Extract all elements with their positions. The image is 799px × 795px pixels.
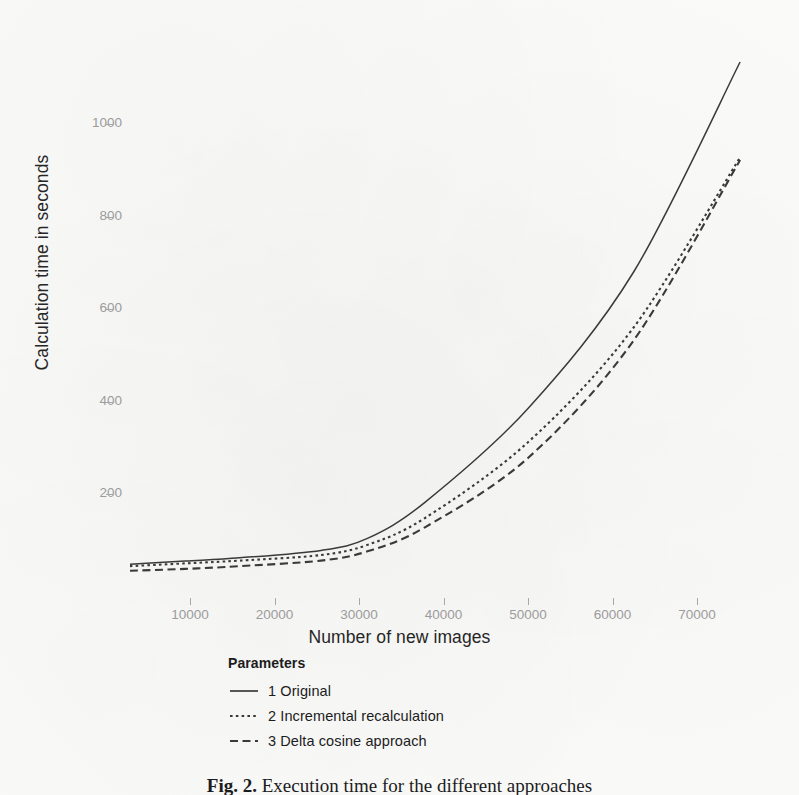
chart-line-series-3	[130, 160, 740, 571]
legend-entry-label: 1 Original	[268, 683, 331, 699]
x-tick-label: 50000	[483, 607, 573, 622]
y-axis-title: Calculation time in seconds	[32, 113, 53, 413]
y-tick-label: 400	[52, 393, 122, 408]
y-tick-mark	[106, 494, 113, 495]
legend-entry-label: 2 Incremental recalculation	[268, 708, 444, 724]
y-tick-label: 600	[52, 300, 122, 315]
x-tick-label: 40000	[399, 607, 489, 622]
x-tick-mark	[444, 598, 445, 605]
x-tick-mark	[190, 598, 191, 605]
x-tick-label: 70000	[652, 607, 742, 622]
legend-entry[interactable]: 2 Incremental recalculation	[228, 703, 568, 728]
chart-series-group	[130, 62, 740, 571]
chart-legend: Parameters 1 Original2 Incremental recal…	[228, 655, 568, 753]
y-tick-label: 200	[52, 485, 122, 500]
legend-title: Parameters	[228, 655, 568, 671]
figure-page: 2004006008001000 Calculation time in sec…	[0, 0, 799, 795]
chart-line-series-1	[130, 62, 740, 564]
legend-entry-label: 3 Delta cosine approach	[268, 733, 427, 749]
y-tick-mark	[106, 402, 113, 403]
x-tick-label: 30000	[314, 607, 404, 622]
legend-entries: 1 Original2 Incremental recalculation3 D…	[228, 678, 568, 753]
legend-line-swatch-dashed-icon	[228, 734, 268, 748]
x-axis-title: Number of new images	[0, 627, 799, 648]
chart-plot-area: 2004006008001000 Calculation time in sec…	[0, 0, 799, 612]
x-tick-mark	[613, 598, 614, 605]
figure-caption-prefix: Fig. 2.	[207, 775, 257, 795]
y-tick-label: 1000	[52, 115, 122, 130]
x-tick-label: 10000	[145, 607, 235, 622]
y-tick-mark	[106, 217, 113, 218]
x-tick-label: 60000	[568, 607, 658, 622]
legend-entry[interactable]: 3 Delta cosine approach	[228, 728, 568, 753]
figure-caption-text: Execution time for the different approac…	[262, 775, 592, 795]
x-tick-label: 20000	[230, 607, 320, 622]
y-tick-mark	[106, 124, 113, 125]
figure-caption: Fig. 2. Execution time for the different…	[0, 775, 799, 795]
x-tick-mark	[275, 598, 276, 605]
x-tick-mark	[528, 598, 529, 605]
chart-line-series-2	[130, 157, 740, 566]
y-tick-label: 800	[52, 208, 122, 223]
legend-line-swatch-dotted-icon	[228, 709, 268, 723]
y-tick-mark	[106, 309, 113, 310]
legend-entry[interactable]: 1 Original	[228, 678, 568, 703]
x-tick-mark	[697, 598, 698, 605]
legend-line-swatch-solid-icon	[228, 684, 268, 698]
x-tick-mark	[359, 598, 360, 605]
